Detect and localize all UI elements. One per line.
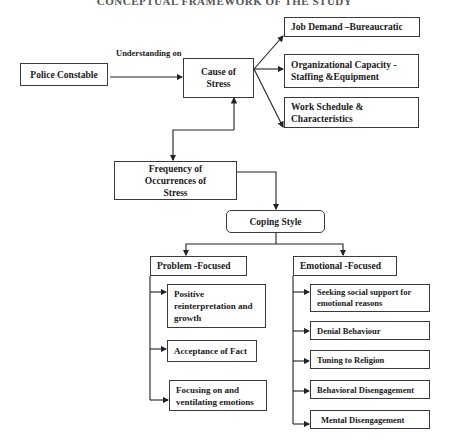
problem-item-focusing-ventilating: Focusing on and ventilating emotions xyxy=(169,380,267,411)
cause-of-stress-box: Cause of Stress xyxy=(183,58,254,98)
frequency-of-stress-box: Frequency of Occurrences of Stress xyxy=(114,161,237,200)
coping-style-box: Coping Style xyxy=(226,210,325,233)
problem-item-positive-reinterpretation: Positive reinterpretation and growth xyxy=(167,284,266,328)
emotional-item-behavioral-disengagement: Behavioral Disengagement xyxy=(310,380,430,399)
understanding-on-label: Understanding on xyxy=(116,48,181,58)
cause-job-demand-box: Job Demand –Bureaucratic xyxy=(284,17,420,37)
emotional-item-religion: Tuning to Religion xyxy=(310,350,430,369)
problem-item-acceptance: Acceptance of Fact xyxy=(167,340,257,362)
problem-focused-box: Problem -Focused xyxy=(150,256,247,276)
emotional-item-seeking-support: Seeking social support for emotional rea… xyxy=(310,284,430,312)
emotional-item-mental-disengagement: Mental Disengagement xyxy=(310,410,430,429)
emotional-focused-box: Emotional -Focused xyxy=(293,256,397,276)
police-constable-box: Police Constable xyxy=(20,63,108,86)
cause-organizational-capacity-box: Organizational Capacity - Staffing &Equi… xyxy=(284,54,419,88)
emotional-item-denial: Denial Behaviour xyxy=(310,321,430,340)
cause-work-schedule-box: Work Schedule & Characteristics xyxy=(284,97,419,128)
